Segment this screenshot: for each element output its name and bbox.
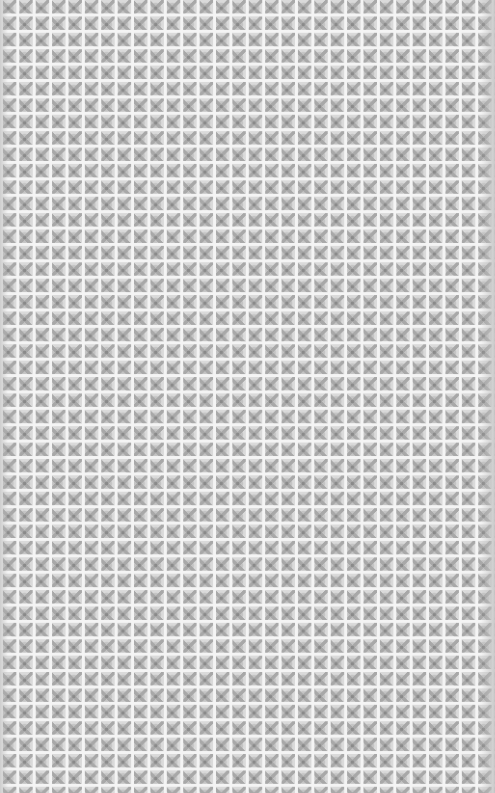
right-edge-shading bbox=[481, 0, 495, 793]
tiled-pattern-background bbox=[0, 0, 495, 793]
left-edge-shading bbox=[0, 0, 8, 793]
